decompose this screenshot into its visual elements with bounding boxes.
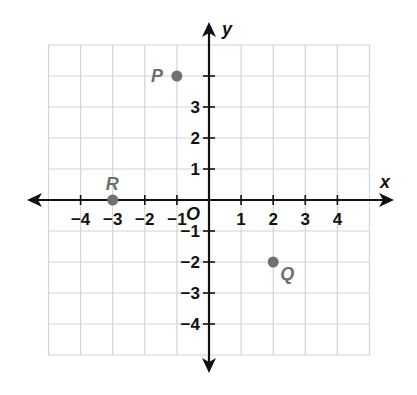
point-label: P xyxy=(151,66,164,86)
x-axis-label: x xyxy=(379,172,391,192)
point-label: R xyxy=(106,174,119,194)
x-tick-label: −4 xyxy=(71,210,91,229)
y-tick-label: −4 xyxy=(181,315,201,334)
coordinate-plane: x y O −4−3−2−11234321−1−2−3−4 PRQ xyxy=(0,0,417,395)
point-marker xyxy=(107,195,118,206)
y-tick-label: −1 xyxy=(181,222,200,241)
y-tick-label: 1 xyxy=(191,160,200,179)
point-q: Q xyxy=(268,257,295,285)
point-r: R xyxy=(106,174,119,206)
point-marker xyxy=(268,257,279,268)
y-tick-label: 2 xyxy=(191,129,200,148)
y-axis-label: y xyxy=(221,19,233,39)
axes: x y O xyxy=(27,19,394,373)
x-tick-label: −3 xyxy=(103,210,122,229)
x-tick-label: −2 xyxy=(135,210,154,229)
x-tick-label: 3 xyxy=(301,210,310,229)
y-tick-label: 3 xyxy=(191,98,200,117)
x-tick-label: 4 xyxy=(333,210,343,229)
point-label: Q xyxy=(280,264,294,284)
origin-label: O xyxy=(186,204,200,224)
x-tick-label: 2 xyxy=(268,210,277,229)
x-tick-label: 1 xyxy=(236,210,245,229)
y-tick-label: −3 xyxy=(181,284,200,303)
y-tick-label: −2 xyxy=(181,253,200,272)
point-marker xyxy=(171,71,182,82)
